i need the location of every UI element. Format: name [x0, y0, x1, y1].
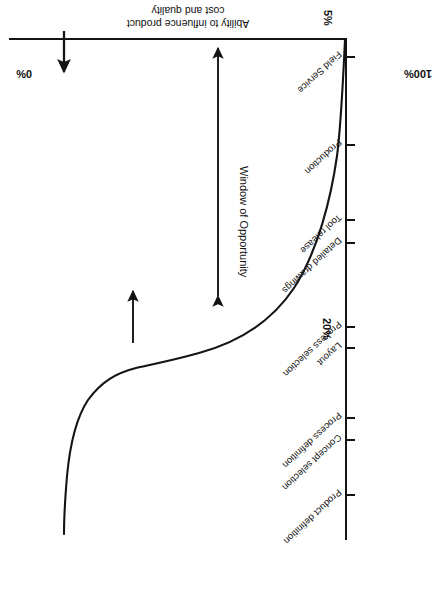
window-of-opportunity-label: Window of Opportunity	[238, 166, 250, 277]
rotated-figure-container: Product definition Concept selection Pro…	[0, 0, 436, 596]
chart-svg-layer	[0, 0, 436, 596]
annotation-label-20-percent: 20%	[321, 318, 333, 340]
annotation-label-5-percent: 5%	[322, 10, 334, 26]
influence-curve	[64, 40, 345, 534]
chart-plot-area: Product definition Concept selection Pro…	[0, 0, 436, 596]
